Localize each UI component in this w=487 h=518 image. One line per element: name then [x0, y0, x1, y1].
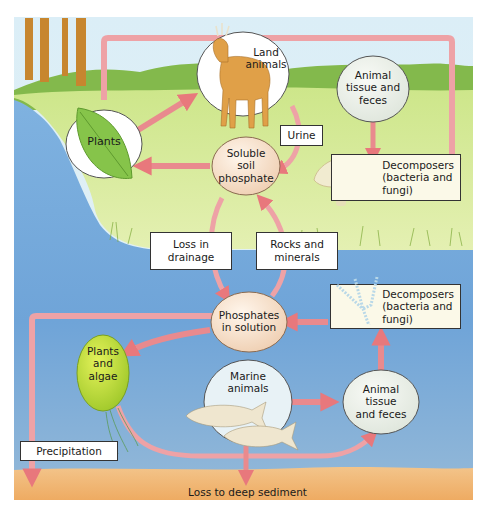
bacteria-chain-icon [333, 275, 393, 325]
rocks-minerals-box: Rocks and minerals [256, 232, 338, 270]
label-line: tissue [348, 395, 414, 407]
precipitation-box: Precipitation [20, 441, 118, 461]
label-line: fungi) [382, 184, 454, 197]
label-line: Animal [340, 69, 406, 81]
label-line: soil [212, 159, 280, 171]
plants-algae-label: Plants and algae [80, 345, 126, 382]
label-line: phosphate [212, 172, 280, 184]
label-line: algae [80, 370, 126, 382]
plants-label: Plants [74, 136, 134, 149]
label-line: Soluble [212, 147, 280, 159]
loss-drainage-box: Loss in drainage [150, 232, 232, 270]
phosphates-solution-label: Phosphates in solution [211, 309, 287, 334]
label-line: feces [340, 94, 406, 106]
decomposers-land-text: Decomposers (bacteria and fungi) [382, 159, 454, 197]
label-line: minerals [270, 251, 324, 264]
label-line: Rocks and [270, 238, 324, 251]
label-line: Loss in [168, 238, 215, 251]
marine-animals-label: Marine animals [218, 370, 278, 395]
label-line: and feces [348, 408, 414, 420]
animal-tissue-sea-label: Animal tissue and feces [348, 383, 414, 420]
label-line: tissue and [340, 81, 406, 93]
label-line: and [80, 357, 126, 369]
label-line: Plants [80, 345, 126, 357]
decomposers-sea-box: Decomposers (bacteria and fungi) [330, 284, 461, 329]
loss-sediment-caption: Loss to deep sediment [180, 486, 315, 498]
label-line: Phosphates [211, 309, 287, 321]
label-line: Marine [218, 370, 278, 382]
decomposers-land-box: Decomposers (bacteria and fungi) [331, 154, 461, 201]
label-line: Decomposers [382, 159, 454, 172]
label-line: Animal [348, 383, 414, 395]
phosphorus-cycle-diagram: Plants Land animals Animal tissue and fe… [0, 0, 487, 518]
label-line: in solution [211, 321, 287, 333]
land-animals-label-line1: Land [236, 46, 296, 58]
soluble-phosphate-label: Soluble soil phosphate [212, 147, 280, 184]
animal-tissue-land-label: Animal tissue and feces [340, 69, 406, 106]
land-animals-label-line2: animals [236, 58, 296, 70]
label-line: drainage [168, 251, 215, 264]
label-line: animals [218, 382, 278, 394]
label-line: (bacteria and [382, 171, 454, 184]
urine-box: Urine [280, 125, 323, 146]
land-animals-label: Land animals [236, 46, 296, 71]
